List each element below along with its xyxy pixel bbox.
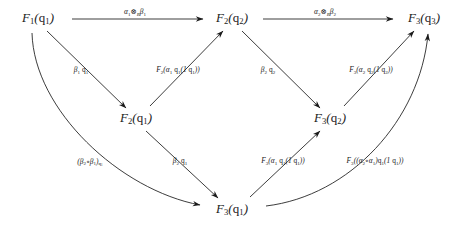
node-f2-q2: F2(q2) bbox=[216, 10, 248, 26]
node-f3-q3: F3(q3) bbox=[408, 10, 440, 26]
arrow-label-alpha2-tensor-beta2: α2⊗Rβ2 bbox=[314, 7, 336, 16]
arrow-label-alpha1-tensor-beta1: α1⊗Rβ1 bbox=[124, 7, 146, 16]
node-f1-q1: F1(q1) bbox=[22, 10, 54, 26]
arrow-label-beta2-q2: β2 q2 bbox=[261, 65, 275, 74]
arrow-f2q2-to-f3q2 bbox=[242, 31, 320, 108]
arrow-label-f3-alpha2-q2-1q2: F3(α2 q2(1 q2)) bbox=[349, 65, 393, 74]
arrow-label-beta1-q1: β1 q1 bbox=[74, 65, 88, 74]
node-f3-q2: F3(q2) bbox=[314, 110, 346, 126]
arrow-label-f3-alpha2-comp-alpha1-q1-1q1: F3((α2∘α1)q1(1 q1)) bbox=[347, 156, 404, 165]
node-f2-q1: F2(q1) bbox=[120, 110, 152, 126]
arrow-f3q1-to-f3q3-curve bbox=[266, 34, 428, 206]
arrow-label-f3-alpha1-q1-1q1: F3(α1 q1(1 q1)) bbox=[261, 156, 305, 165]
node-f3-q1: F3(q1) bbox=[216, 201, 248, 217]
commutative-diagram: F1(q1) F2(q2) F3(q3) F2(q1) F3(q2) F3(q1… bbox=[0, 0, 461, 226]
arrow-label-beta2-q1: β2 q1 bbox=[173, 156, 187, 165]
arrow-label-beta2-comp-beta1-q1: (β2∘β1)q1 bbox=[77, 157, 102, 167]
arrow-label-f2-alpha1-q1-1q1: F2(α1 q1(1 q1)) bbox=[156, 65, 200, 74]
diagram-arrows-layer bbox=[0, 0, 461, 226]
arrow-f1q1-to-f3q1-curve bbox=[32, 33, 200, 205]
